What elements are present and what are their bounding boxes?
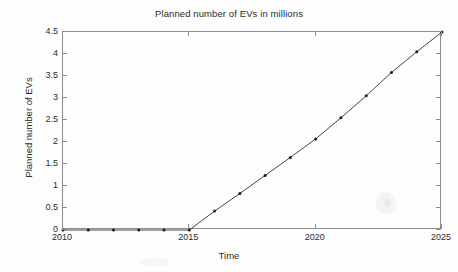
y-tick-label: 4 xyxy=(18,48,58,58)
x-tick-label: 2020 xyxy=(291,232,339,242)
data-point-marker xyxy=(112,229,115,232)
x-tick-mark xyxy=(441,31,442,36)
y-tick-label: 3 xyxy=(18,92,58,102)
data-point-marker xyxy=(314,137,317,140)
x-tick-label: 2025 xyxy=(417,232,458,242)
y-tick-mark xyxy=(62,229,67,230)
y-tick-label: 1.5 xyxy=(18,158,58,168)
data-point-marker xyxy=(365,94,368,97)
data-point-marker xyxy=(264,174,267,177)
y-tick-label: 3.5 xyxy=(18,70,58,80)
data-point-marker xyxy=(238,192,241,195)
data-point-marker xyxy=(339,116,342,119)
y-tick-mark xyxy=(436,119,441,120)
data-point-marker xyxy=(415,50,418,53)
x-tick-mark xyxy=(441,224,442,229)
y-tick-mark xyxy=(436,229,441,230)
y-tick-mark xyxy=(436,207,441,208)
y-tick-mark xyxy=(436,97,441,98)
y-tick-mark xyxy=(62,119,67,120)
data-point-marker xyxy=(289,156,292,159)
x-tick-mark xyxy=(315,224,316,229)
y-tick-label: 1 xyxy=(18,180,58,190)
x-tick-label: 2010 xyxy=(38,232,86,242)
y-tick-mark xyxy=(62,31,67,32)
data-point-marker xyxy=(213,210,216,213)
y-tick-mark xyxy=(62,53,67,54)
x-tick-label: 2015 xyxy=(164,232,212,242)
y-tick-mark xyxy=(62,163,67,164)
plot-area xyxy=(62,31,441,229)
chart-figure: Planned number of EVs in millions Planne… xyxy=(0,0,458,272)
y-tick-mark xyxy=(436,75,441,76)
y-tick-mark xyxy=(436,31,441,32)
y-tick-mark xyxy=(62,97,67,98)
y-tick-mark xyxy=(436,53,441,54)
x-tick-mark xyxy=(188,31,189,36)
data-point-marker xyxy=(137,229,140,232)
y-tick-mark xyxy=(436,141,441,142)
y-tick-label: 0.5 xyxy=(18,202,58,212)
y-tick-label: 2.5 xyxy=(18,114,58,124)
data-series-line xyxy=(63,32,442,230)
y-tick-mark xyxy=(436,185,441,186)
x-tick-mark xyxy=(188,224,189,229)
data-point-marker xyxy=(87,229,90,232)
x-axis-title: Time xyxy=(0,250,458,261)
data-point-marker xyxy=(390,71,393,74)
y-tick-mark xyxy=(62,141,67,142)
y-tick-label: 2 xyxy=(18,136,58,146)
y-tick-label: 4.5 xyxy=(18,26,58,36)
x-tick-mark xyxy=(315,31,316,36)
y-tick-mark xyxy=(62,75,67,76)
chart-title: Planned number of EVs in millions xyxy=(0,8,458,19)
series-line xyxy=(63,32,442,230)
y-tick-mark xyxy=(62,207,67,208)
y-tick-mark xyxy=(436,163,441,164)
y-tick-mark xyxy=(62,185,67,186)
